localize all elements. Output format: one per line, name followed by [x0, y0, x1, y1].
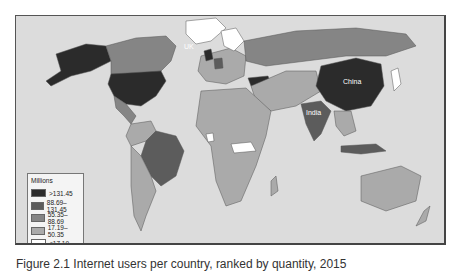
label-uk: UK — [184, 43, 194, 50]
region-russia — [244, 28, 416, 66]
region-alaska — [46, 44, 111, 86]
region-madagascar — [271, 176, 278, 196]
legend-item: 88.69–131.45 — [31, 200, 80, 213]
world-map-frame: UK China India Millions >131.45 88.69–13… — [15, 15, 446, 245]
region-se-asia — [334, 111, 356, 136]
region-canada — [106, 36, 176, 74]
legend-item: <17.19 — [31, 237, 80, 245]
legend-item: 55.35–88.69 — [31, 212, 80, 225]
label-china: China — [343, 78, 361, 85]
legend-swatch — [31, 202, 44, 210]
region-australia — [361, 166, 421, 211]
region-japan — [391, 68, 401, 91]
region-greenland — [186, 18, 226, 44]
legend-title: Millions — [31, 177, 80, 184]
figure-caption: Figure 2.1 Internet users per country, r… — [16, 257, 346, 271]
legend-swatch — [31, 189, 46, 197]
region-germany — [214, 58, 223, 69]
legend-label: >131.45 — [49, 190, 73, 197]
legend-item: 17.19–50.35 — [31, 225, 80, 238]
legend-swatch — [31, 239, 46, 245]
legend-swatch — [31, 227, 45, 235]
legend-label: <17.19 — [49, 240, 69, 245]
map-legend: Millions >131.45 88.69–131.45 55.35–88.6… — [27, 173, 84, 245]
region-scandinavia — [221, 28, 244, 51]
legend-swatch — [31, 214, 45, 222]
region-new-zealand — [416, 206, 430, 226]
label-india: India — [306, 109, 321, 116]
legend-item: >131.45 — [31, 187, 80, 200]
region-india — [301, 101, 331, 141]
legend-label: 17.19–50.35 — [48, 224, 80, 238]
region-indonesia — [341, 144, 386, 154]
